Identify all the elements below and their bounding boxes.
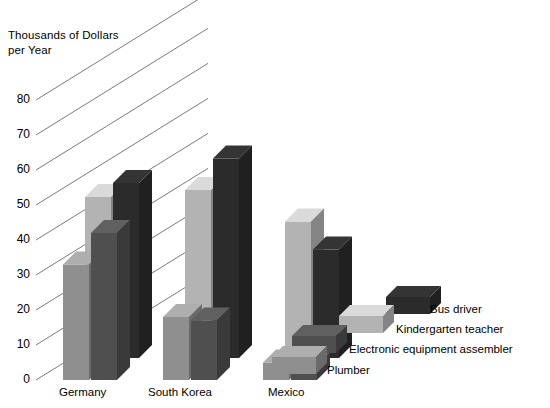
y-axis-title-line-2: per Year	[8, 43, 119, 58]
category-label-germany: Germany	[59, 386, 106, 398]
category-label-south-korea: South Korea	[148, 386, 212, 398]
bar-south-korea-electronic-equipment-assembler	[191, 308, 230, 381]
y-axis-title-line-1: Thousands of Dollars	[8, 28, 119, 43]
y-axis-title: Thousands of Dollars per Year	[8, 28, 119, 58]
y-tick-60: 60	[4, 162, 30, 176]
y-tick-20: 20	[4, 302, 30, 316]
legend-label-plumber: Plumber	[327, 364, 370, 376]
legend-swatch-plumber	[272, 346, 327, 374]
y-tick-80: 80	[4, 92, 30, 106]
y-tick-0: 0	[4, 372, 30, 386]
legend-label-kindergarten-teacher: Kindergarten teacher	[396, 323, 503, 335]
y-tick-50: 50	[4, 197, 30, 211]
legend-label-bus-driver: Bus driver	[430, 303, 482, 315]
y-tick-70: 70	[4, 127, 30, 141]
legend-swatch-kindergarten-teacher	[339, 305, 394, 333]
category-label-mexico: Mexico	[268, 386, 304, 398]
bar-germany-electronic-equipment-assembler	[91, 220, 130, 380]
y-tick-40: 40	[4, 232, 30, 246]
legend-label-electronic-equipment-assembler: Electronic equipment assembler	[349, 343, 513, 355]
y-tick-30: 30	[4, 267, 30, 281]
chart-root: Thousands of Dollars per Year 0102030405…	[0, 0, 550, 408]
y-tick-10: 10	[4, 337, 30, 351]
